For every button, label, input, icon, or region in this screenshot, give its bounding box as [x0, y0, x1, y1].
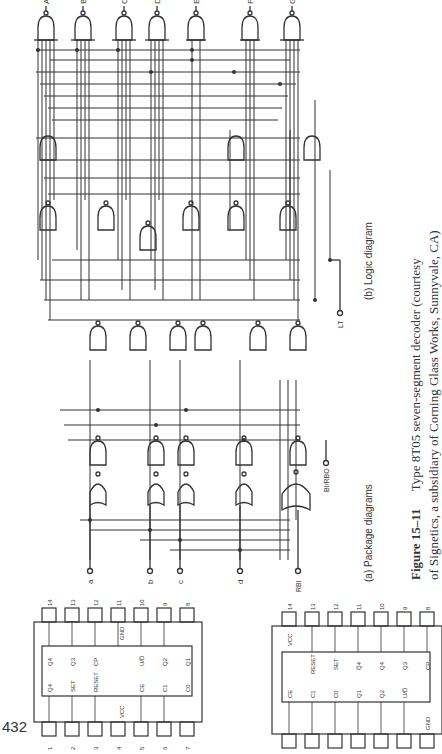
right-inner-bottom-5: U/D̅ [402, 687, 408, 698]
input-label-a: a [86, 579, 95, 584]
page-svg: A B C D E F G a b c d RBI BI/RBO LT (b) … [0, 0, 442, 754]
left-pin-boxes-bottom [42, 722, 194, 736]
output-label-e: E [192, 0, 201, 4]
left-inner-bottom-2: RESET [93, 672, 99, 692]
caption-line-1: Type 8T05 seven-segment decoder (courtes… [408, 258, 423, 492]
right-inner-bottom-1: C1 [310, 690, 316, 698]
right-inner-bottom-0: CE [287, 690, 293, 698]
right-inner-top-1: RESET [310, 654, 316, 674]
figure-caption: Figure 15–11 Type 8T05 seven-segment dec… [408, 230, 441, 580]
input-label-rbi: RBI [295, 580, 302, 592]
right-inner-bottom-2: C0 [333, 690, 339, 698]
input-stubs [88, 260, 343, 574]
page-number: 432 [2, 718, 27, 735]
package-diagram-left [34, 608, 202, 736]
svg-text:Figure 15–11 Type 8T05 s: Figure 15–11 Type 8T05 seven-segment dec… [408, 258, 423, 580]
left-pin-1: 1 [47, 746, 53, 750]
left-pin-13: 13 [70, 599, 76, 606]
left-inner-top-0: Q4 [47, 657, 53, 666]
middle-gates [40, 136, 320, 350]
input-label-bi-rbo: BI/RBO [323, 468, 330, 492]
left-pin-14: 14 [47, 599, 53, 606]
input-label-b: b [146, 579, 155, 584]
input-label-d: d [236, 580, 245, 584]
left-pin-9: 9 [162, 602, 168, 606]
left-pin-3: 3 [93, 746, 99, 750]
right-pin-12: 12 [333, 603, 339, 610]
input-labels: a b c d RBI BI/RBO LT [86, 320, 344, 592]
input-label-lt: LT [337, 320, 344, 328]
package-diagram-right [272, 612, 442, 748]
right-vcc-label: VCC [287, 633, 293, 646]
subfigure-labels: (b) Logic diagram (a) Package diagrams [363, 222, 374, 582]
bus-lines [36, 50, 300, 550]
left-pin-11: 11 [116, 599, 122, 606]
left-inner-top-6: Q1 [185, 657, 191, 666]
left-pin-12: 12 [93, 599, 99, 606]
output-label-a: A [42, 0, 51, 4]
right-pin-10: 10 [379, 603, 385, 610]
left-inner-top-5: Q2 [162, 657, 168, 666]
left-pin-7: 7 [185, 746, 191, 750]
left-pin-5: 5 [139, 746, 145, 750]
left-package-labels: 14 13 12 11 10 9 8 1 2 3 4 5 6 7 GND VCC… [47, 599, 191, 750]
left-pin-8: 8 [185, 602, 191, 606]
left-pin-4: 4 [116, 746, 122, 750]
left-inner-bottom-1: SET [70, 680, 76, 692]
output-label-b: B [79, 0, 88, 4]
output-labels: A B C D E F G [42, 0, 297, 4]
left-pin-10: 10 [139, 599, 145, 606]
left-inner-bottom-6: C0 [185, 684, 191, 692]
right-gnd-label: GND [425, 716, 431, 730]
left-inner-top-2: CP [93, 658, 99, 666]
input-label-c: c [176, 580, 185, 584]
output-label-f: F [246, 0, 255, 4]
left-inner-bottom-4: CE [139, 684, 145, 692]
right-package-labels: 14 13 12 11 10 9 8 VCC GND RESET SET Q̅4… [287, 603, 431, 730]
right-inner-bottom-4: Q2 [379, 689, 385, 698]
right-inner-top-2: SET [333, 658, 339, 670]
right-inner-bottom-3: Q1 [356, 689, 362, 698]
caption-line-2: of Signetics, a subsidiary of Corning Gl… [426, 230, 441, 580]
left-pin-2: 2 [70, 746, 76, 750]
right-inner-top-3: Q̅4 [356, 661, 362, 670]
left-gnd-label: GND [119, 626, 125, 640]
output-gates [34, 6, 304, 40]
subfigure-a-label: (a) Package diagrams [363, 484, 374, 582]
right-inner-top-6: CP [425, 662, 431, 670]
left-inner-bottom-0: Q4 [47, 683, 53, 692]
output-label-c: C [120, 0, 129, 4]
right-inner-top-4: Q4 [379, 661, 385, 670]
right-pin-14: 14 [287, 603, 293, 610]
left-inner-bottom-5: C1 [162, 684, 168, 692]
output-label-d: D [153, 0, 162, 4]
right-pin-8: 8 [425, 606, 431, 610]
right-pin-9: 9 [402, 606, 408, 610]
left-pin-boxes-top [42, 608, 194, 622]
subfigure-b-label: (b) Logic diagram [363, 222, 374, 300]
left-pin-6: 6 [162, 746, 168, 750]
output-label-g: G [288, 0, 297, 4]
left-vcc-label: VCC [119, 705, 125, 718]
logic-diagram [34, 6, 343, 574]
left-inner-top-1: Q3 [70, 657, 76, 666]
figure-number: Figure 15–11 [408, 508, 423, 580]
left-inner-top-4: U/D̅ [139, 655, 145, 666]
right-inner-top-5: Q3 [402, 661, 408, 670]
right-pin-13: 13 [310, 603, 316, 610]
input-gates [90, 436, 310, 510]
right-pin-11: 11 [356, 603, 362, 610]
